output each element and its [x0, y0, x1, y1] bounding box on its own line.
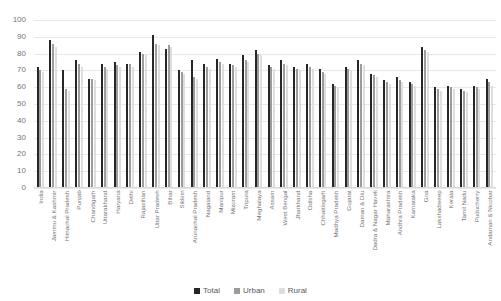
legend-item-total[interactable]: Total — [194, 287, 220, 295]
bar-urban[interactable] — [155, 44, 157, 188]
bar-group[interactable] — [72, 20, 85, 188]
bar-rural[interactable] — [222, 64, 224, 188]
bar-urban[interactable] — [91, 79, 93, 188]
bar-total[interactable] — [203, 64, 205, 188]
bar-total[interactable] — [306, 64, 308, 188]
bar-group[interactable] — [265, 20, 278, 188]
bar-group[interactable] — [175, 20, 188, 188]
bar-total[interactable] — [268, 65, 270, 188]
bar-urban[interactable] — [142, 54, 144, 188]
bar-urban[interactable] — [373, 75, 375, 188]
bar-urban[interactable] — [309, 67, 311, 188]
bar-rural[interactable] — [414, 86, 416, 188]
bar-rural[interactable] — [324, 74, 326, 188]
bar-urban[interactable] — [386, 82, 388, 188]
bar-rural[interactable] — [183, 74, 185, 188]
bar-group[interactable] — [60, 20, 73, 188]
bar-rural[interactable] — [286, 65, 288, 188]
bar-total[interactable] — [460, 89, 462, 188]
bar-urban[interactable] — [399, 80, 401, 188]
bar-urban[interactable] — [450, 87, 452, 188]
bar-rural[interactable] — [119, 67, 121, 188]
bar-group[interactable] — [329, 20, 342, 188]
bar-group[interactable] — [432, 20, 445, 188]
bar-rural[interactable] — [209, 69, 211, 188]
bar-group[interactable] — [457, 20, 470, 188]
bar-total[interactable] — [409, 82, 411, 188]
bar-group[interactable] — [85, 20, 98, 188]
bar-group[interactable] — [393, 20, 406, 188]
bar-urban[interactable] — [437, 89, 439, 188]
bar-group[interactable] — [47, 20, 60, 188]
bar-total[interactable] — [383, 80, 385, 188]
bar-rural[interactable] — [466, 92, 468, 188]
bar-rural[interactable] — [145, 55, 147, 188]
bar-total[interactable] — [75, 60, 77, 188]
bar-urban[interactable] — [424, 50, 426, 188]
bar-rural[interactable] — [42, 72, 44, 188]
bar-total[interactable] — [191, 60, 193, 188]
bar-group[interactable] — [162, 20, 175, 188]
bar-urban[interactable] — [116, 65, 118, 188]
bar-group[interactable] — [445, 20, 458, 188]
bar-rural[interactable] — [491, 86, 493, 188]
bar-group[interactable] — [226, 20, 239, 188]
bar-total[interactable] — [62, 70, 64, 188]
bar-urban[interactable] — [257, 54, 259, 188]
bar-group[interactable] — [111, 20, 124, 188]
bar-total[interactable] — [332, 84, 334, 188]
bar-urban[interactable] — [334, 86, 336, 188]
bar-rural[interactable] — [170, 47, 172, 188]
bar-group[interactable] — [124, 20, 137, 188]
bar-group[interactable] — [278, 20, 291, 188]
bar-total[interactable] — [37, 67, 39, 188]
bar-group[interactable] — [406, 20, 419, 188]
bar-group[interactable] — [483, 20, 496, 188]
bar-group[interactable] — [342, 20, 355, 188]
bar-rural[interactable] — [273, 69, 275, 188]
bar-urban[interactable] — [193, 77, 195, 188]
bar-urban[interactable] — [322, 72, 324, 188]
bar-urban[interactable] — [411, 84, 413, 188]
bar-group[interactable] — [239, 20, 252, 188]
bar-urban[interactable] — [296, 69, 298, 188]
bar-urban[interactable] — [476, 87, 478, 188]
bar-group[interactable] — [214, 20, 227, 188]
bar-group[interactable] — [355, 20, 368, 188]
bar-total[interactable] — [139, 52, 141, 188]
bar-urban[interactable] — [52, 44, 54, 188]
bar-urban[interactable] — [245, 60, 247, 188]
bar-rural[interactable] — [363, 65, 365, 188]
bar-total[interactable] — [114, 62, 116, 188]
bar-group[interactable] — [149, 20, 162, 188]
bar-total[interactable] — [293, 67, 295, 188]
bar-rural[interactable] — [94, 80, 96, 188]
bar-total[interactable] — [473, 86, 475, 188]
bar-rural[interactable] — [389, 84, 391, 188]
bar-rural[interactable] — [376, 77, 378, 188]
bar-rural[interactable] — [401, 82, 403, 188]
bar-group[interactable] — [252, 20, 265, 188]
bar-rural[interactable] — [337, 87, 339, 188]
bar-rural[interactable] — [106, 69, 108, 188]
bar-total[interactable] — [345, 67, 347, 188]
bar-urban[interactable] — [168, 45, 170, 188]
bar-urban[interactable] — [206, 67, 208, 188]
bar-group[interactable] — [303, 20, 316, 188]
bar-urban[interactable] — [39, 70, 41, 188]
bar-group[interactable] — [34, 20, 47, 188]
bar-total[interactable] — [88, 79, 90, 188]
bar-total[interactable] — [319, 69, 321, 188]
bar-total[interactable] — [178, 70, 180, 188]
bar-urban[interactable] — [488, 82, 490, 188]
bar-rural[interactable] — [196, 79, 198, 188]
bar-total[interactable] — [101, 64, 103, 188]
bar-rural[interactable] — [68, 91, 70, 188]
bar-group[interactable] — [316, 20, 329, 188]
bar-total[interactable] — [126, 64, 128, 188]
legend-item-urban[interactable]: Urban — [234, 287, 265, 295]
bar-rural[interactable] — [158, 45, 160, 188]
bar-group[interactable] — [201, 20, 214, 188]
bar-urban[interactable] — [283, 64, 285, 188]
bar-urban[interactable] — [219, 62, 221, 188]
